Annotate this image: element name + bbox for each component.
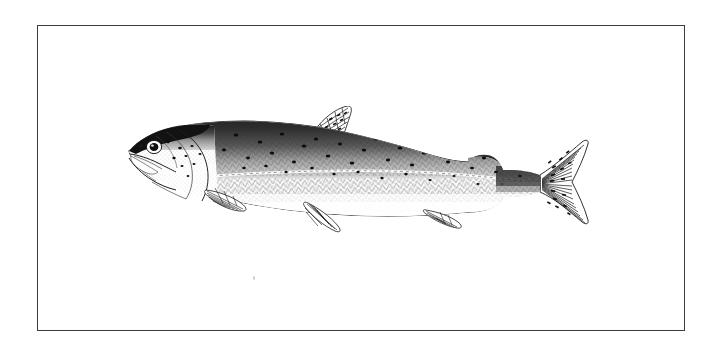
- fish-illustration: [96, 106, 596, 256]
- figure-page: [0, 0, 725, 349]
- eye: [146, 140, 161, 153]
- scan-speck: [253, 276, 255, 280]
- caudal-peduncle: [496, 166, 542, 192]
- caudal-fin: [540, 140, 588, 223]
- illustration-border: [37, 25, 685, 331]
- illustration-stage: [38, 26, 684, 330]
